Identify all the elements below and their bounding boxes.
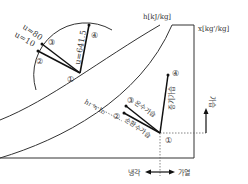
humidify-label: 가습 (208, 96, 217, 108)
humidity-axis-label: x[kg'/kg] (198, 25, 229, 33)
chart-point-1-label: ① (165, 136, 172, 145)
chart-point-4 (167, 74, 170, 77)
protractor-point-2-label: ② (36, 57, 43, 66)
heating-arrowhead-icon (169, 170, 175, 175)
humidify-arrowhead-icon (204, 108, 209, 114)
chart-point-2-label: ② (113, 112, 120, 121)
cooling-label: 냉각 (128, 168, 141, 177)
chart-point-3-label: ③ (127, 96, 134, 105)
circulating-water-humidify-label: 순환수가습 (123, 115, 153, 140)
protractor-point-1-label: ① (67, 75, 74, 84)
chart-point-4-label: ④ (172, 69, 179, 78)
protractor-point-4 (88, 24, 91, 27)
cooling-arrowhead-icon (145, 170, 151, 175)
psychrometric-diagram: u=80 u=10 u=641.5 ③ ② ④ ① h[kJ/kg] x[kg'… (0, 0, 248, 184)
protractor-point-4-label: ④ (91, 31, 98, 40)
u641-label: u=641.5 (73, 30, 88, 66)
heating-label: 가열 (178, 168, 190, 177)
protractor-point-3 (41, 43, 44, 46)
chart-point-2 (123, 112, 126, 115)
steam-humidify-label: 증기가습 (167, 86, 176, 110)
protractor-point-2 (37, 50, 40, 53)
enthalpy-axis-label: h[kJ/kg] (143, 13, 171, 21)
protractor-point-3-label: ③ (48, 38, 55, 47)
warm-water-humidify-label: 온수가습 (133, 98, 158, 119)
